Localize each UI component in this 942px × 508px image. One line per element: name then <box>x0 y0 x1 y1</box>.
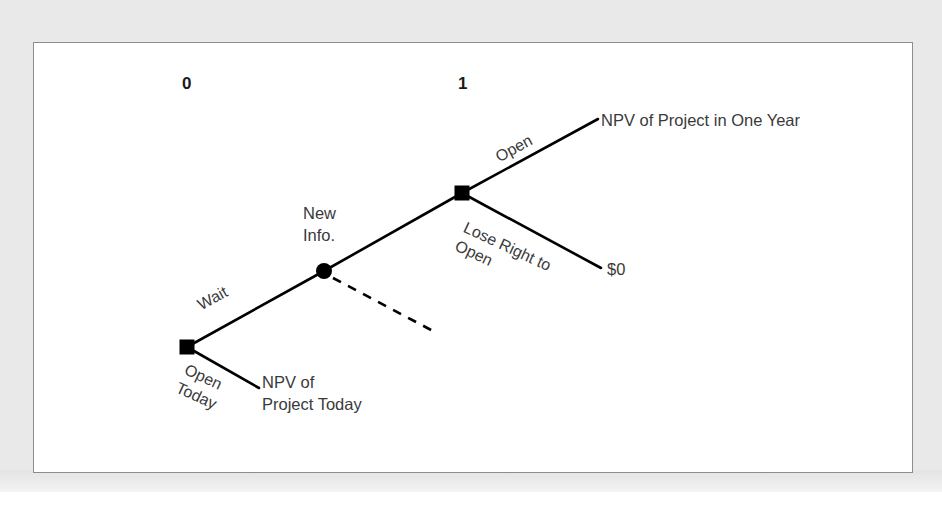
scan-background-shading <box>0 470 942 492</box>
chance-node-label-line2: Info. <box>303 225 336 247</box>
timeline-label-period-1: 1 <box>458 74 467 94</box>
figure-page: 0 1 New Info. Wait Open Today Open Lose … <box>0 0 942 508</box>
payoff-npv-project-today-line2: Project Today <box>262 394 362 416</box>
payoff-zero: $0 <box>607 259 625 281</box>
chance-node-label-line1: New <box>303 203 336 225</box>
payoff-npv-project-one-year: NPV of Project in One Year <box>601 110 800 132</box>
payoff-npv-project-today-line1: NPV of <box>262 372 362 394</box>
chance-node-label: New Info. <box>303 203 336 247</box>
page-bottom-white-strip <box>0 492 942 508</box>
timeline-label-period-0: 0 <box>182 74 191 94</box>
payoff-npv-project-today: NPV of Project Today <box>262 372 362 416</box>
